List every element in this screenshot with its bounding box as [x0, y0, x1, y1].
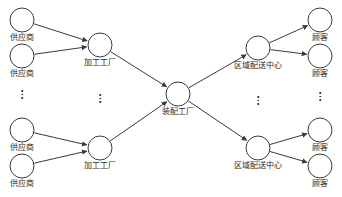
- vertical-ellipsis-supplier: [21, 88, 23, 101]
- node-distribution_center-d2[interactable]: [246, 136, 270, 160]
- edge-d1-to-c2: [270, 50, 306, 55]
- node-label-c4: 顾客: [312, 179, 328, 188]
- node-assembly_plant-a1[interactable]: [166, 82, 190, 106]
- node-label-s4: 供应商: [10, 179, 34, 188]
- edge-d2-to-c3: [270, 134, 307, 145]
- edge-a1-to-d2: [188, 101, 246, 140]
- node-label-c2: 顾客: [312, 69, 328, 78]
- node-label-s3: 供应商: [10, 143, 34, 152]
- network-graph: [0, 0, 342, 197]
- edge-p2-to-a1: [110, 102, 167, 141]
- node-customer-c2[interactable]: [308, 44, 332, 68]
- vertical-ellipsis-distribution_center: [257, 94, 259, 107]
- node-supplier-s2[interactable]: [10, 44, 34, 68]
- node-supplier-s1[interactable]: [10, 8, 34, 32]
- node-customer-c4[interactable]: [308, 154, 332, 178]
- node-label-s2: 供应商: [10, 69, 34, 78]
- node-label-p2: 加工工厂: [84, 161, 116, 170]
- node-customer-c3[interactable]: [308, 118, 332, 142]
- node-distribution_center-d1[interactable]: [246, 36, 270, 60]
- supply-chain-diagram: 供应商供应商供应商供应商加工工厂加工工厂装配工厂区域配送中心区域配送中心顾客顾客…: [0, 0, 342, 197]
- node-label-c3: 顾客: [312, 143, 328, 152]
- vertical-ellipsis-customer: [319, 90, 321, 103]
- edge-s4-to-p2: [34, 151, 87, 163]
- node-label-d2: 区域配送中心: [234, 161, 282, 170]
- edge-s2-to-p1: [34, 47, 86, 54]
- edge-d1-to-c1: [269, 26, 307, 43]
- node-label-s1: 供应商: [10, 33, 34, 42]
- node-label-c1: 顾客: [312, 33, 328, 42]
- node-processing_plant-p2[interactable]: [88, 136, 112, 160]
- edge-s3-to-p2: [34, 133, 87, 145]
- node-customer-c1[interactable]: [308, 8, 332, 32]
- edge-s1-to-p1: [34, 24, 87, 41]
- edge-p1-to-a1: [111, 52, 167, 87]
- node-processing_plant-p1[interactable]: [88, 33, 112, 57]
- nodes-group: [10, 8, 332, 178]
- node-supplier-s3[interactable]: [10, 118, 34, 142]
- node-label-a1: 装配工厂: [162, 107, 194, 116]
- node-label-p1: 加工工厂: [84, 58, 116, 67]
- edge-a1-to-d1: [189, 55, 246, 88]
- node-label-d1: 区域配送中心: [234, 61, 282, 70]
- node-supplier-s4[interactable]: [10, 154, 34, 178]
- vertical-ellipsis-processing_plant: [99, 92, 101, 105]
